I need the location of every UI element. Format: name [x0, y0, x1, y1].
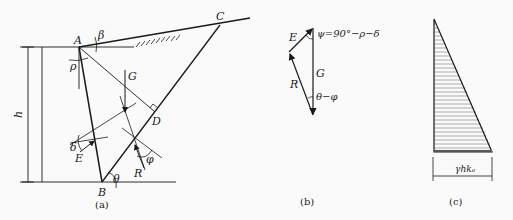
- angle-rho-label: ρ: [69, 60, 77, 73]
- force-E-arrow: [80, 141, 94, 152]
- height-label: h: [12, 111, 25, 118]
- figure-b: E G R ψ=90°−ρ−δ θ−φ (b): [288, 28, 380, 207]
- vector-R-label: R: [289, 78, 298, 91]
- R-action-line: [120, 96, 145, 170]
- angle-theta-phi-label: θ−φ: [316, 91, 337, 102]
- point-D-label: D: [151, 115, 161, 128]
- angle-theta-label: θ: [113, 173, 120, 186]
- diagram-canvas: h: [0, 0, 513, 220]
- vector-G-label: G: [316, 67, 325, 80]
- perpendicular-AD: [79, 47, 155, 112]
- figure-c-caption: (c): [449, 196, 463, 207]
- slip-normal-line: [122, 128, 162, 158]
- E-action-line: [70, 103, 136, 145]
- psi-arc: [306, 35, 313, 39]
- angle-psi-label: ψ=90°−ρ−δ: [317, 28, 380, 39]
- angle-beta-label: β: [97, 29, 104, 42]
- base-pressure-label: γhkₐ: [455, 164, 475, 174]
- figure-c: γhkₐ (c): [433, 19, 492, 207]
- figure-a-caption: (a): [95, 199, 109, 210]
- point-A-label: A: [73, 34, 82, 47]
- force-G-label: G: [128, 70, 137, 83]
- angle-delta-label: δ: [70, 141, 77, 154]
- figure-b-caption: (b): [300, 196, 314, 207]
- slip-plane-BC: [102, 25, 220, 182]
- point-C-label: C: [216, 10, 225, 23]
- point-B-label: B: [97, 186, 106, 199]
- force-R-label: R: [133, 167, 142, 180]
- theta-phi-arc: [308, 97, 313, 98]
- vector-E-label: E: [288, 31, 297, 44]
- right-angle-mark: [150, 104, 158, 108]
- angle-phi-label: φ: [146, 153, 154, 166]
- figure-a: h: [12, 10, 250, 210]
